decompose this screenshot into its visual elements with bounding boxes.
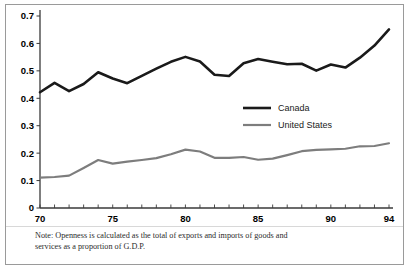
y-tick-label: 0.2 [21, 148, 34, 159]
series-line-united-states [40, 143, 389, 177]
chart-note: Note: Openness is calculated as the tota… [35, 231, 335, 252]
y-tick-label: 0.4 [21, 93, 35, 104]
y-tick-label: 0.1 [21, 175, 35, 186]
line-chart-plot: 00.10.20.30.40.50.60.7707580859094Canada… [0, 0, 410, 270]
x-tick-label: 94 [384, 213, 395, 224]
legend-label-canada: Canada [278, 103, 310, 113]
y-tick-label: 0 [29, 202, 34, 213]
y-tick-label: 0.5 [21, 65, 35, 76]
note-line-1: Note: Openness is calculated as the tota… [35, 231, 335, 242]
x-tick-label: 80 [180, 213, 191, 224]
x-tick-label: 85 [253, 213, 264, 224]
note-line-2: services as a proportion of G.D.P. [35, 242, 335, 253]
x-tick-label: 70 [35, 213, 46, 224]
legend-label-united-states: United States [278, 120, 333, 130]
x-tick-label: 75 [107, 213, 118, 224]
series-line-canada [40, 29, 389, 92]
y-tick-label: 0.3 [21, 120, 34, 131]
y-tick-label: 0.7 [21, 10, 34, 21]
openness-chart-figure: 00.10.20.30.40.50.60.7707580859094Canada… [0, 0, 410, 270]
y-tick-label: 0.6 [21, 38, 34, 49]
x-tick-label: 90 [326, 213, 337, 224]
